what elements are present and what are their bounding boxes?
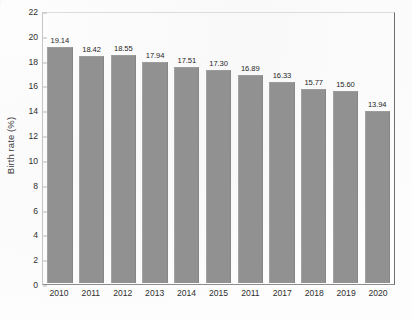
bar-value-label: 16.89 [241, 64, 260, 73]
bar-value-label: 17.94 [146, 51, 165, 60]
x-tick-label: 2015 [203, 288, 235, 298]
bar[interactable] [365, 111, 390, 283]
y-axis-title-text: Birth rate (%) [6, 116, 17, 173]
x-tick-label: 2019 [330, 288, 362, 298]
y-tick-label-2: 2 [18, 255, 38, 265]
bar-slot: 17.30 [203, 14, 235, 283]
bar-slot: 18.55 [107, 14, 139, 283]
x-tick-label: 2017 [266, 288, 298, 298]
x-tick-label: 2013 [139, 288, 171, 298]
bar[interactable] [174, 67, 199, 283]
bar-slot: 17.94 [139, 14, 171, 283]
bar-slot: 15.77 [298, 14, 330, 283]
bar[interactable] [47, 47, 72, 283]
bar-slot: 19.14 [44, 14, 76, 283]
y-tick-label-22: 22 [18, 7, 38, 17]
y-axis-tick-labels: 2220181614121086420 [18, 12, 38, 285]
bar[interactable] [333, 91, 358, 283]
bar[interactable] [301, 89, 326, 283]
bar-slot: 16.33 [266, 14, 298, 283]
bar[interactable] [79, 56, 104, 283]
bar[interactable] [111, 55, 136, 284]
bar-slot: 17.51 [171, 14, 203, 283]
bar-series: 19.1418.4218.5517.9417.5117.3016.8916.33… [44, 14, 393, 283]
y-tick-label-20: 20 [18, 32, 38, 42]
bar-value-label: 17.30 [209, 59, 228, 68]
x-tick-label: 2018 [298, 288, 330, 298]
bar-value-label: 15.60 [336, 80, 355, 89]
y-tick-label-0: 0 [18, 280, 38, 290]
bar-value-label: 19.14 [51, 36, 70, 45]
y-tick-label-10: 10 [18, 156, 38, 166]
bar[interactable] [206, 70, 231, 283]
x-tick-label: 2011 [234, 288, 266, 298]
x-axis-tick-labels: 2010201120122013201420152011201720182019… [43, 288, 394, 298]
bar-chart-figure: Birth rate (%) 2220181614121086420 19.14… [0, 0, 412, 320]
x-tick-label: 2014 [171, 288, 203, 298]
bar-slot: 18.42 [76, 14, 108, 283]
x-tick-label: 2020 [362, 288, 394, 298]
y-tick-label-8: 8 [18, 181, 38, 191]
bar-value-label: 17.51 [178, 56, 197, 65]
x-tick-label: 2010 [43, 288, 75, 298]
bar-value-label: 16.33 [273, 71, 292, 80]
bar-value-label: 13.94 [368, 100, 387, 109]
bar-slot: 16.89 [234, 14, 266, 283]
x-tick-label: 2012 [107, 288, 139, 298]
bar[interactable] [142, 62, 167, 283]
bar-value-label: 15.77 [304, 78, 323, 87]
y-tick-label-12: 12 [18, 131, 38, 141]
plot-area: 19.1418.4218.5517.9417.5117.3016.8916.33… [42, 12, 395, 285]
bar-slot: 15.60 [330, 14, 362, 283]
y-tick-label-16: 16 [18, 81, 38, 91]
bar-slot: 13.94 [361, 14, 393, 283]
bar[interactable] [238, 75, 263, 283]
y-tick-label-6: 6 [18, 206, 38, 216]
y-tick-label-18: 18 [18, 57, 38, 67]
x-tick-label: 2011 [75, 288, 107, 298]
bar[interactable] [269, 82, 294, 283]
bar-value-label: 18.42 [82, 45, 101, 54]
y-tick-label-14: 14 [18, 106, 38, 116]
bar-value-label: 18.55 [114, 44, 133, 53]
y-tick-label-4: 4 [18, 230, 38, 240]
y-tick-mark [43, 286, 47, 287]
